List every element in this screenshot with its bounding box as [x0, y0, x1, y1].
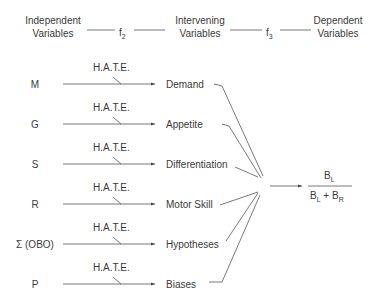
fraction-denominator: BL + BR — [310, 190, 344, 202]
input-variable: R — [15, 199, 55, 210]
modifier-label: H.A.T.E. — [93, 142, 130, 153]
fraction-numerator: BL — [324, 170, 335, 182]
numerator-b: B — [324, 170, 331, 181]
input-variable: M — [15, 79, 55, 90]
intervening-variable: Biases — [166, 279, 196, 290]
intervening-variable: Differentiation — [166, 159, 228, 170]
modifier-label: H.A.T.E. — [93, 222, 130, 233]
plus-sign: + — [323, 190, 329, 201]
denominator-b-right: B — [332, 190, 339, 201]
input-variable: G — [15, 119, 55, 130]
modifier-label: H.A.T.E. — [93, 262, 130, 273]
denominator-b-left: B — [310, 190, 317, 201]
intervening-variable: Demand — [166, 79, 204, 90]
diagram-connectors — [0, 0, 370, 305]
input-variable: P — [15, 279, 55, 290]
denominator-left-subscript: L — [317, 196, 321, 203]
numerator-subscript: L — [331, 176, 335, 183]
intervening-variable: Hypotheses — [166, 239, 219, 250]
modifier-label: H.A.T.E. — [93, 182, 130, 193]
input-variable: Σ (OBO) — [6, 239, 64, 250]
intervening-variable: Motor Skill — [166, 199, 213, 210]
modifier-label: H.A.T.E. — [93, 102, 130, 113]
modifier-label: H.A.T.E. — [93, 62, 130, 73]
intervening-variable: Appetite — [166, 119, 203, 130]
input-variable: S — [15, 159, 55, 170]
denominator-right-subscript: R — [339, 196, 344, 203]
